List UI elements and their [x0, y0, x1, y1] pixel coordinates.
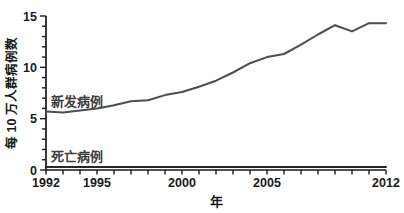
series-label-new-cases: 新发病例 — [51, 91, 103, 110]
series-label-deaths: 死亡病例 — [51, 146, 103, 165]
x-tick-label: 1995 — [83, 176, 111, 190]
x-axis-title: 年 — [166, 194, 266, 210]
x-tick-label: 2012 — [372, 176, 400, 190]
x-tick-label: 1992 — [32, 176, 60, 190]
incidence-line-chart-figure: 19921995200020052012051015 每 10 万人群病例数 年… — [0, 0, 404, 213]
y-tick-label: 5 — [30, 112, 37, 126]
x-tick-label: 2005 — [253, 176, 281, 190]
y-tick-label: 10 — [23, 61, 37, 75]
x-tick-label: 2000 — [168, 176, 196, 190]
y-tick-label: 0 — [30, 164, 37, 178]
y-tick-label: 15 — [23, 10, 37, 24]
y-axis-title: 每 10 万人群病例数 — [4, 23, 20, 163]
